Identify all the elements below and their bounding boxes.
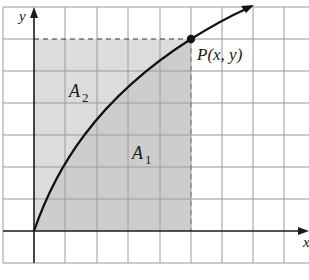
- x-axis-label: x: [302, 234, 309, 250]
- point-p-label: P(x, y): [196, 45, 243, 64]
- region-a1-label: A: [131, 143, 144, 163]
- point-p: [187, 35, 195, 43]
- region-a2-subscript: 2: [82, 90, 89, 105]
- y-axis-label: y: [17, 8, 26, 24]
- diagram-canvas: y x P(x, y) A 2 A 1: [0, 0, 309, 280]
- curve-arrow-icon: [241, 5, 254, 13]
- region-a1-subscript: 1: [145, 152, 152, 167]
- y-axis-arrow-icon: [30, 7, 38, 18]
- region-a2-label: A: [68, 81, 81, 101]
